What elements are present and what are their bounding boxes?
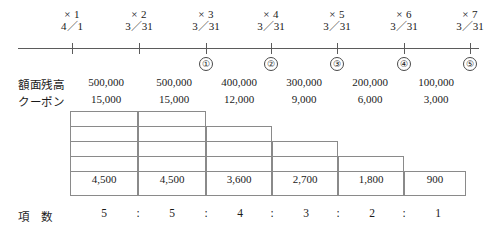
ratio-value: 4 (206, 207, 274, 219)
coupon-cell: 15,000 (140, 93, 208, 105)
staircase-column-3: 3,600 (206, 126, 272, 196)
face-value-cell: 100,000 (402, 76, 470, 88)
circled-marker-5: ⑤ (463, 57, 477, 71)
circled-marker-2: ② (264, 57, 278, 71)
staircase-cell (71, 126, 137, 141)
period-header-6: × 6 3／31 (374, 8, 434, 33)
staircase-column-5: 1,800 (338, 156, 404, 196)
diagram-canvas: × 1 4／1 × 2 3／31 × 3 3／31 × 4 3／31 × 5 3… (0, 0, 497, 231)
staircase-cell (139, 156, 205, 171)
coupon-cell: 3,000 (402, 93, 470, 105)
coupon-cell: 12,000 (205, 93, 273, 105)
staircase-bottom-value: 3,600 (207, 171, 271, 186)
circled-marker-4: ④ (397, 57, 411, 71)
period-multiplier: × 3 (176, 8, 236, 20)
coupon-cell: 9,000 (270, 93, 338, 105)
period-multiplier: × 2 (109, 8, 169, 20)
staircase-bottom-value: 2,700 (273, 171, 337, 186)
period-date: 3／31 (241, 20, 301, 32)
period-header-3: × 3 3／31 (176, 8, 236, 33)
period-date: 3／31 (307, 20, 367, 32)
staircase-bottom-value: 4,500 (139, 171, 205, 186)
face-value-cell: 500,000 (72, 76, 140, 88)
axis-tick-5 (337, 43, 338, 54)
period-multiplier: × 7 (440, 8, 497, 20)
period-multiplier: × 4 (241, 8, 301, 20)
staircase-bottom-value: 1,800 (339, 171, 403, 186)
staircase-column-1: 4,500 (70, 111, 138, 196)
ratio-value: 5 (70, 207, 138, 219)
circled-marker-3: ③ (330, 57, 344, 71)
ratio-row-label: 項 数 (18, 208, 53, 224)
period-header-4: × 4 3／31 (241, 8, 301, 33)
axis-tick-4 (271, 43, 272, 54)
period-header-5: × 5 3／31 (307, 8, 367, 33)
staircase-cell (273, 141, 337, 156)
staircase-cell (207, 141, 271, 156)
staircase-cell (273, 156, 337, 171)
staircase-column-4: 2,700 (272, 141, 338, 196)
staircase-cell (71, 111, 137, 126)
ratio-value: 1 (404, 207, 472, 219)
axis-tick-1 (72, 43, 73, 54)
axis-tick-6 (404, 43, 405, 54)
face-value-cell: 400,000 (205, 76, 273, 88)
period-date: 3／31 (109, 20, 169, 32)
staircase-column-6: 900 (404, 171, 466, 196)
ratio-value: 2 (338, 207, 406, 219)
period-header-2: × 2 3／31 (109, 8, 169, 33)
face-value-cell: 500,000 (140, 76, 208, 88)
period-multiplier: × 1 (42, 8, 102, 20)
staircase-cell (339, 156, 403, 171)
ratio-value: 5 (138, 207, 206, 219)
axis-tick-7 (470, 43, 471, 54)
period-multiplier: × 6 (374, 8, 434, 20)
staircase-cell (139, 141, 205, 156)
period-date: 4／1 (42, 20, 102, 32)
timeline-axis (18, 48, 479, 49)
axis-tick-2 (139, 43, 140, 54)
period-header-1: × 1 4／1 (42, 8, 102, 33)
coupon-row-label: クーポン (18, 93, 64, 109)
period-header-7: × 7 3／31 (440, 8, 497, 33)
staircase-bottom-value: 900 (405, 171, 465, 186)
staircase-cell (139, 126, 205, 141)
face-value-cell: 200,000 (336, 76, 404, 88)
staircase-bottom-value: 4,500 (71, 171, 137, 186)
staircase-cell (207, 156, 271, 171)
period-date: 3／31 (176, 20, 236, 32)
staircase-cell (71, 141, 137, 156)
coupon-cell: 6,000 (336, 93, 404, 105)
coupon-cell: 15,000 (72, 93, 140, 105)
staircase-cell (207, 126, 271, 141)
ratio-value: 3 (272, 207, 340, 219)
face-value-row-label: 額面残高 (18, 76, 64, 92)
circled-marker-1: ① (199, 57, 213, 71)
staircase-cell (71, 156, 137, 171)
staircase-column-2: 4,500 (138, 111, 206, 196)
period-multiplier: × 5 (307, 8, 367, 20)
face-value-cell: 300,000 (270, 76, 338, 88)
staircase-cell (139, 111, 205, 126)
period-date: 3／31 (440, 20, 497, 32)
axis-tick-3 (206, 43, 207, 54)
period-date: 3／31 (374, 20, 434, 32)
